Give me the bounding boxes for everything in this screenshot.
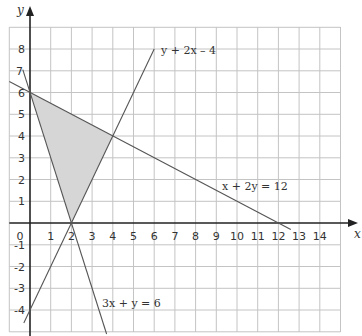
y-axis-label: y: [16, 3, 24, 17]
svg-text:10: 10: [230, 230, 244, 243]
svg-text:-2: -2: [14, 261, 25, 274]
svg-text:-4: -4: [14, 304, 25, 317]
svg-text:2: 2: [68, 230, 75, 243]
label-line-y-2x-4: y + 2x – 4: [160, 44, 216, 57]
svg-text:13: 13: [292, 230, 306, 243]
svg-text:11: 11: [251, 230, 265, 243]
svg-text:6: 6: [151, 230, 158, 243]
svg-text:7: 7: [171, 230, 178, 243]
label-line-x-2y-12: x + 2y = 12: [222, 180, 288, 193]
graph-canvas: 0 1 2 3 4 5 6 7 8 9 10 11 12 13 14 8 7 6…: [0, 0, 362, 336]
svg-text:9: 9: [213, 230, 220, 243]
svg-text:-1: -1: [14, 239, 25, 252]
svg-text:5: 5: [18, 108, 25, 121]
svg-text:1: 1: [18, 195, 25, 208]
svg-text:1: 1: [47, 230, 54, 243]
line-y-2x-4: [24, 49, 154, 323]
svg-text:3: 3: [18, 152, 25, 165]
y-axis-arrow-icon: [26, 6, 34, 16]
svg-text:-3: -3: [14, 282, 25, 295]
svg-text:12: 12: [271, 230, 285, 243]
svg-text:4: 4: [109, 230, 116, 243]
x-axis-arrow-icon: [348, 219, 358, 227]
svg-text:7: 7: [16, 65, 23, 78]
svg-text:5: 5: [130, 230, 137, 243]
svg-text:14: 14: [313, 230, 327, 243]
svg-text:2: 2: [18, 174, 25, 187]
svg-text:4: 4: [18, 130, 25, 143]
svg-text:8: 8: [192, 230, 199, 243]
x-axis-label: x: [354, 227, 361, 241]
label-line-3x-y-6: 3x + y = 6: [102, 297, 161, 310]
svg-text:3: 3: [89, 230, 96, 243]
svg-text:8: 8: [18, 43, 25, 56]
svg-text:6: 6: [18, 87, 25, 100]
line-3x-y-6: [23, 70, 107, 334]
